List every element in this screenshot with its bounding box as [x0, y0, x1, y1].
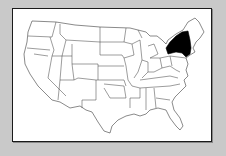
us-map [0, 0, 226, 156]
